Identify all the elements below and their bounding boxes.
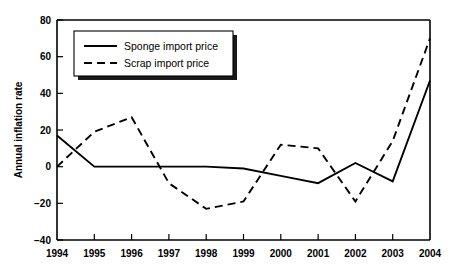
- x-tick-label: 2003: [382, 248, 405, 259]
- y-tick-label: 0: [45, 161, 51, 172]
- chart-legend: Sponge import price Scrap import price: [74, 31, 237, 80]
- chart-canvas: 806040200−20−40 199419951996199719981999…: [0, 0, 453, 267]
- x-tick-label: 1995: [83, 248, 106, 259]
- legend-box: [74, 31, 233, 76]
- x-tick-label: 2001: [307, 248, 330, 259]
- y-tick-label: 80: [40, 15, 52, 26]
- x-axis-ticks: 1994199519961997199819992000200120022003…: [46, 234, 442, 259]
- y-axis-ticks: 806040200−20−40: [34, 15, 63, 246]
- y-axis-title: Annual inflation rate: [13, 81, 24, 178]
- y-tick-label: −20: [34, 198, 51, 209]
- x-tick-label: 1994: [46, 248, 69, 259]
- x-tick-label: 1999: [232, 248, 255, 259]
- y-tick-label: 60: [40, 51, 52, 62]
- legend-label-sponge: Sponge import price: [124, 40, 218, 52]
- legend-label-scrap: Scrap import price: [124, 57, 209, 69]
- x-tick-label: 1998: [195, 248, 218, 259]
- series-line-sponge: [57, 81, 430, 184]
- line-chart: 806040200−20−40 199419951996199719981999…: [0, 0, 453, 267]
- x-tick-label: 1997: [158, 248, 181, 259]
- x-tick-label: 2000: [270, 248, 293, 259]
- y-tick-label: 20: [40, 125, 52, 136]
- y-tick-label: −40: [34, 235, 51, 246]
- x-tick-label: 1996: [120, 248, 143, 259]
- y-tick-label: 40: [40, 88, 52, 99]
- x-tick-label: 2004: [419, 248, 442, 259]
- x-tick-label: 2002: [344, 248, 367, 259]
